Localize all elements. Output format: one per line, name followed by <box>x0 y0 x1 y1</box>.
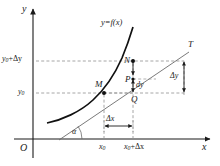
guide-lines <box>36 59 184 139</box>
curve-label: y=f(x) <box>101 18 122 27</box>
delta-y-label: Δy <box>170 72 178 80</box>
y-tick-upper-extra: +Δy <box>8 54 22 63</box>
point-label-q: Q <box>131 95 138 104</box>
angle-arc <box>78 126 82 139</box>
y-axis-label: y <box>22 4 26 14</box>
x-tick-label-x0-dx: x0+Δx <box>124 143 144 152</box>
y-tick-label-lower: y0 <box>18 88 24 97</box>
dy-label: dy <box>136 81 144 89</box>
function-curve <box>47 27 133 123</box>
x-tick-x0-sub: 0 <box>103 145 106 151</box>
differential-geometry-figure: y x O y=f(x) T α M N P Q y0+Δy y0 x0 x0+… <box>0 0 220 166</box>
delta-x-label: Δx <box>106 115 114 123</box>
dy-label-y: y <box>140 80 144 89</box>
point-label-n: N <box>124 56 130 65</box>
point-dot-m <box>102 91 106 95</box>
y-tick-label-upper: y0+Δy <box>2 55 22 64</box>
point-dot-p <box>131 77 134 80</box>
axis-group <box>14 9 210 158</box>
point-label-m: M <box>95 80 103 89</box>
x-tick-x0dx-extra: +Δx <box>130 142 144 151</box>
point-dot-n <box>131 59 135 63</box>
origin-label: O <box>20 143 27 153</box>
x-tick-label-x0: x0 <box>99 143 105 152</box>
tangent-label: T <box>188 40 193 49</box>
curve-label-text: y=f(x) <box>101 17 122 27</box>
y-tick-lower-sub: 0 <box>22 90 25 96</box>
point-label-p: P <box>125 75 131 84</box>
x-axis-label: x <box>202 142 206 152</box>
angle-alpha-label: α <box>72 128 76 136</box>
